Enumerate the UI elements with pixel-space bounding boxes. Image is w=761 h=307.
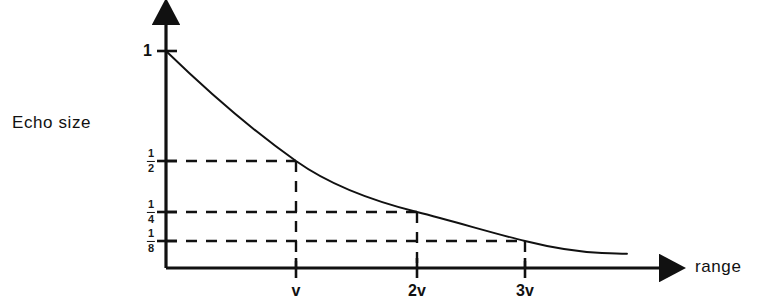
x-axis-title: range [695, 258, 741, 275]
y-tick-label-quarter-numerator: 1 [147, 199, 155, 213]
decay-curve [166, 51, 627, 254]
x-tick-label-2v: 2v [408, 283, 426, 299]
y-tick-label-1: 1 [143, 43, 152, 59]
echo-size-range-figure: Echo size range 1 1 2 1 4 1 8 v 2v 3v [0, 0, 761, 307]
y-tick-label-half-denominator: 2 [147, 162, 155, 175]
plot-area [0, 0, 761, 307]
x-tick-label-v: v [292, 283, 301, 299]
y-tick-label-half: 1 2 [147, 148, 155, 174]
y-axis-title: Echo size [12, 114, 91, 131]
x-tick-label-3v: 3v [516, 283, 534, 299]
y-tick-label-half-numerator: 1 [147, 148, 155, 162]
y-tick-label-eighth-numerator: 1 [147, 228, 155, 242]
y-tick-label-eighth: 1 8 [147, 228, 155, 254]
y-tick-label-quarter: 1 4 [147, 199, 155, 225]
y-tick-label-quarter-denominator: 4 [147, 213, 155, 226]
y-tick-label-eighth-denominator: 8 [147, 242, 155, 255]
